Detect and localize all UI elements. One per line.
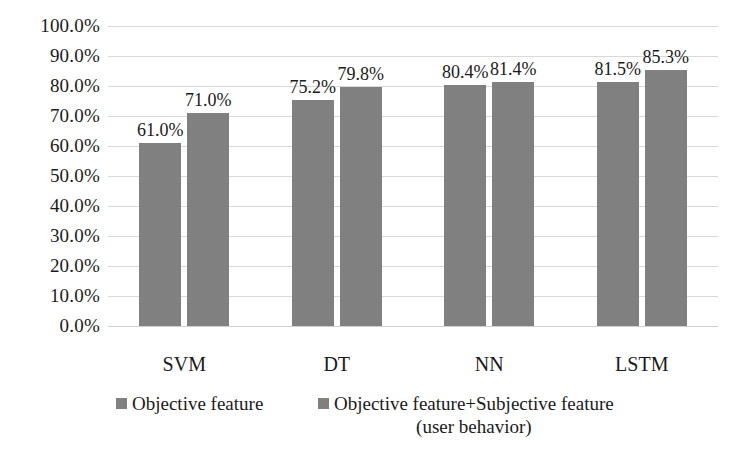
bar xyxy=(444,85,486,326)
chart-legend: Objective feature Objective feature+Subj… xyxy=(0,392,743,454)
y-axis-tick-label: 60.0% xyxy=(8,136,100,155)
bar-value-label: 71.0% xyxy=(185,91,232,109)
y-axis-tick-label: 100.0% xyxy=(8,16,100,35)
legend-swatch-icon xyxy=(318,398,329,409)
y-axis-tick-label: 20.0% xyxy=(8,256,100,275)
x-axis-category-labels: SVMDTNNLSTM xyxy=(108,352,718,382)
gridline xyxy=(108,56,718,57)
bar xyxy=(292,100,334,326)
bar xyxy=(139,143,181,326)
legend-item-label: Objective feature+Subjective feature (us… xyxy=(334,392,614,438)
x-axis-tick-label: LSTM xyxy=(566,352,719,376)
y-axis-tick-label: 10.0% xyxy=(8,286,100,305)
legend-item-objective-feature: Objective feature xyxy=(116,392,263,415)
bar xyxy=(597,82,639,327)
x-axis-tick-label: SVM xyxy=(108,352,261,376)
y-axis-tick-label: 30.0% xyxy=(8,226,100,245)
bar xyxy=(645,70,687,326)
legend-item-objective-plus-subjective-feature: Objective feature+Subjective feature (us… xyxy=(318,392,718,438)
x-axis-tick-label: NN xyxy=(413,352,566,376)
y-axis-tick-label: 70.0% xyxy=(8,106,100,125)
y-axis-tick-label: 80.0% xyxy=(8,76,100,95)
y-axis-tick-label: 0.0% xyxy=(8,316,100,335)
y-axis-tick-labels: 100.0%90.0%80.0%70.0%60.0%50.0%40.0%30.0… xyxy=(8,0,100,350)
legend-item-label: Objective feature xyxy=(132,392,263,415)
bar-value-label: 81.4% xyxy=(490,60,537,78)
y-axis-tick-label: 90.0% xyxy=(8,46,100,65)
grid-and-bars-layer: 61.0%71.0%75.2%79.8%80.4%81.4%81.5%85.3% xyxy=(108,0,718,350)
bar-value-label: 80.4% xyxy=(442,63,489,81)
bar-value-label: 75.2% xyxy=(290,78,337,96)
y-axis-tick-label: 40.0% xyxy=(8,196,100,215)
bar-value-label: 61.0% xyxy=(137,121,184,139)
bar-chart: 100.0%90.0%80.0%70.0%60.0%50.0%40.0%30.0… xyxy=(0,0,743,457)
plot-area: 100.0%90.0%80.0%70.0%60.0%50.0%40.0%30.0… xyxy=(0,0,743,350)
gridline xyxy=(108,326,718,327)
bar-value-label: 81.5% xyxy=(595,60,642,78)
bar xyxy=(187,113,229,326)
gridline xyxy=(108,26,718,27)
bar xyxy=(492,82,534,326)
bar xyxy=(340,87,382,326)
x-axis-tick-label: DT xyxy=(261,352,414,376)
bar-value-label: 85.3% xyxy=(643,48,690,66)
legend-swatch-icon xyxy=(116,398,127,409)
y-axis-tick-label: 50.0% xyxy=(8,166,100,185)
bar-value-label: 79.8% xyxy=(338,65,385,83)
